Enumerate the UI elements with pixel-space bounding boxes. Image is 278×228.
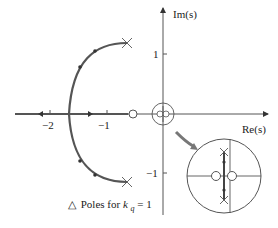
x-tick-label-minus-1: −1 [98, 119, 110, 131]
arrow-left-icon [38, 111, 43, 117]
branch-arrow-icon [78, 159, 82, 163]
branch-arrow-icon [93, 173, 97, 177]
magnify-arrow-icon [176, 132, 193, 146]
legend-text: △ Poles for k q = 1 [68, 198, 152, 213]
inset-magnified-view [187, 139, 261, 213]
root-locus-plot: Im(s) Re(s) −2 −1 1 −1 △ Poles for k q =… [0, 0, 278, 228]
y-tick-label-1: 1 [153, 48, 159, 60]
upper-locus-branch [69, 43, 127, 114]
zero-icon [129, 110, 137, 118]
branch-arrow-icon [78, 65, 82, 69]
arrow-right-icon [88, 111, 93, 117]
y-tick-label-minus-1: −1 [146, 167, 158, 179]
re-axis-label: Re(s) [242, 123, 266, 136]
triangle-icon: △ [68, 198, 77, 210]
branch-arrow-icon [93, 49, 97, 53]
x-tick-label-minus-2: −2 [42, 119, 54, 131]
im-axis-label: Im(s) [173, 8, 197, 21]
